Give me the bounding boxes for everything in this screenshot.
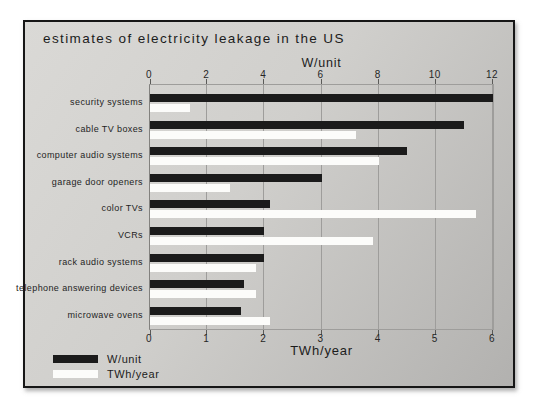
twh-bar bbox=[150, 317, 270, 325]
wunit-swatch bbox=[53, 355, 98, 363]
category-label: telephone answering devices bbox=[16, 283, 143, 293]
bar-row bbox=[150, 245, 493, 272]
axis-tick bbox=[150, 79, 151, 84]
wunit-bar bbox=[150, 200, 270, 208]
bar-row bbox=[150, 112, 493, 139]
wunit-bar bbox=[150, 254, 264, 262]
axis-tick bbox=[435, 79, 436, 84]
axis-tick bbox=[378, 79, 379, 84]
bar-row bbox=[150, 138, 493, 165]
bar-row bbox=[150, 218, 493, 245]
wunit-bar bbox=[150, 227, 264, 235]
category-label: microwave ovens bbox=[67, 310, 143, 320]
category-labels: security systemscable TV boxescomputer a… bbox=[25, 84, 143, 330]
top-axis-title: W/unit bbox=[149, 56, 494, 70]
legend-item-twh: TWh/year bbox=[53, 366, 159, 381]
wunit-bar bbox=[150, 147, 407, 155]
axis-tick bbox=[263, 79, 264, 84]
category-label: VCRs bbox=[118, 230, 143, 240]
wunit-bar bbox=[150, 307, 241, 315]
bar-row bbox=[150, 165, 493, 192]
chart-frame: estimates of electricity leakage in the … bbox=[23, 20, 515, 388]
axis-tick bbox=[206, 79, 207, 84]
category-label: garage door openers bbox=[52, 177, 143, 187]
plot-area bbox=[149, 84, 494, 330]
chart-title: estimates of electricity leakage in the … bbox=[43, 31, 345, 46]
axis-tick bbox=[492, 79, 493, 84]
twh-swatch bbox=[53, 370, 98, 378]
bar-row bbox=[150, 271, 493, 298]
top-axis-tick-labels: 024681012 bbox=[149, 69, 494, 81]
category-label: color TVs bbox=[102, 203, 143, 213]
wunit-bar bbox=[150, 174, 322, 182]
wunit-bar bbox=[150, 94, 493, 102]
page: estimates of electricity leakage in the … bbox=[0, 0, 536, 408]
category-label: cable TV boxes bbox=[76, 124, 143, 134]
wunit-bar bbox=[150, 280, 244, 288]
legend-label-wunit: W/unit bbox=[107, 353, 142, 365]
top-tick-label: 0 bbox=[146, 69, 152, 80]
legend-label-twh: TWh/year bbox=[107, 368, 159, 380]
axis-tick bbox=[321, 79, 322, 84]
category-label: security systems bbox=[70, 97, 143, 107]
legend-item-wunit: W/unit bbox=[53, 351, 159, 366]
bottom-axis-title: TWh/year bbox=[149, 343, 494, 358]
bar-row bbox=[150, 191, 493, 218]
wunit-bar bbox=[150, 121, 464, 129]
bar-row bbox=[150, 298, 493, 325]
bar-row bbox=[150, 85, 493, 112]
category-label: computer audio systems bbox=[37, 150, 143, 160]
category-label: rack audio systems bbox=[59, 257, 143, 267]
legend: W/unit TWh/year bbox=[53, 351, 159, 381]
